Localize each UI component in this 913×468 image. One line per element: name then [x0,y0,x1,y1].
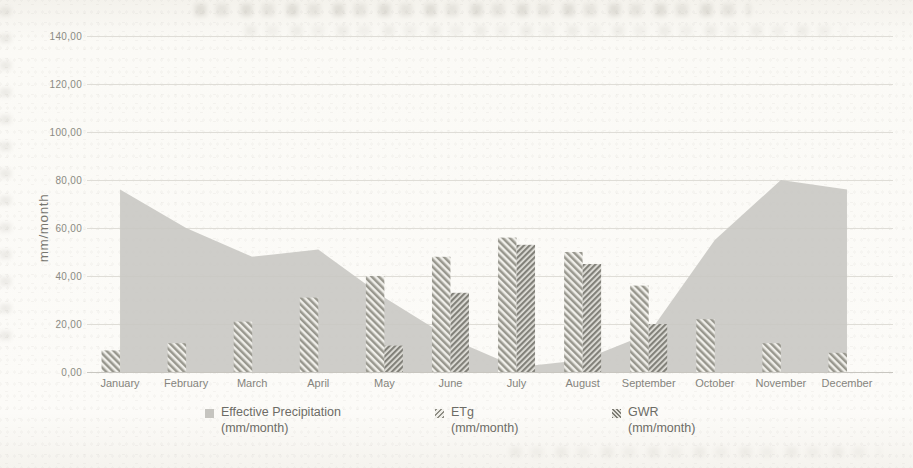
etg-bar-february [168,343,187,372]
x-axis-label-may: May [374,377,395,389]
legend-series-name: Effective Precipitation [221,405,341,421]
y-axis-tick-label: 120,00 [40,79,82,90]
y-axis-tick-label: 60,00 [40,223,82,234]
y-axis-tick-label: 140,00 [40,31,82,42]
gwr-hatch-swatch-icon [612,409,621,418]
legend-series-unit: (mm/month) [451,421,518,437]
legend-entry-etg: ETg (mm/month) [435,405,518,436]
y-axis-tick-label: 40,00 [40,271,82,282]
x-axis-label-september: September [622,377,676,389]
etg-bar-december [828,353,847,372]
y-axis-tick-label: 20,00 [40,319,82,330]
x-axis-label-august: August [566,377,600,389]
y-axis-tick-label: 100,00 [40,127,82,138]
scan-artifact [245,26,845,36]
x-axis-label-march: March [237,377,268,389]
etg-bar-august [564,252,583,372]
gwr-bar-september [649,324,668,372]
etg-bar-april [300,298,319,372]
legend-label: GWR (mm/month) [628,405,695,436]
legend-series-unit: (mm/month) [221,421,341,437]
etg-hatch-swatch-icon [435,409,444,418]
legend-entry-effective-precipitation: Effective Precipitation (mm/month) [205,405,341,436]
etg-bar-november [762,343,781,372]
gwr-bar-may [384,346,403,372]
scan-artifact [195,4,750,16]
etg-bar-september [630,286,649,372]
x-axis-label-november: November [756,377,807,389]
x-axis-label-december: December [822,377,873,389]
legend-entry-gwr: GWR (mm/month) [612,405,695,436]
scan-artifact [510,447,880,457]
etg-bar-january [102,350,121,372]
x-axis-label-february: February [164,377,208,389]
etg-bar-march [234,322,253,372]
gwr-bar-july [517,245,536,372]
scan-artifact [0,0,11,340]
y-axis-tick-label: 0,00 [40,367,82,378]
legend-series-name: ETg [451,405,518,421]
x-axis-label-june: June [439,377,463,389]
x-axis-label-october: October [695,377,734,389]
area-series-swatch-icon [205,409,214,418]
legend-label: Effective Precipitation (mm/month) [221,405,341,436]
gwr-bar-august [583,264,602,372]
gwr-bar-june [450,293,469,372]
legend-label: ETg (mm/month) [451,405,518,436]
etg-bar-october [696,319,715,372]
etg-bar-may [366,276,385,372]
y-axis-tick-label: 80,00 [40,175,82,186]
scanned-page: mm/month 0,0020,0040,0060,0080,00100,001… [0,0,913,468]
legend-series-unit: (mm/month) [628,421,695,437]
x-axis-label-january: January [100,377,139,389]
plot-svg [87,36,893,376]
x-axis-label-july: July [507,377,527,389]
x-axis-label-april: April [307,377,329,389]
etg-bar-july [498,238,516,372]
etg-bar-june [432,257,451,372]
legend-series-name: GWR [628,405,695,421]
